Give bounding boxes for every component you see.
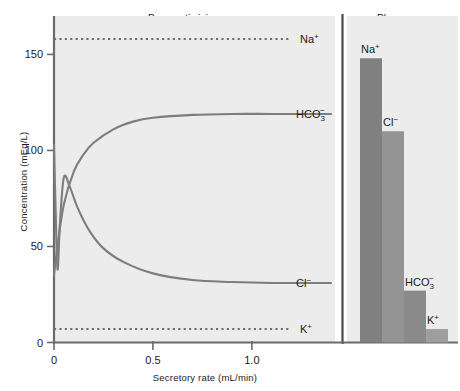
x-tick-label: 0: [51, 354, 57, 366]
y-tick-label: 150: [25, 48, 43, 60]
x-tick-labels: 00.51.0: [51, 354, 260, 366]
y-tick-label: 0: [37, 337, 43, 349]
y-tick-labels: 050100150: [25, 48, 43, 348]
x-tick-label: 1.0: [244, 354, 259, 366]
figure-panel: Concentration (mEq/L) Secretory rate (mL…: [0, 0, 460, 391]
y-tick-label: 50: [31, 240, 43, 252]
bar-K+: [426, 329, 448, 342]
bar-Na+: [360, 58, 382, 342]
bar-HCO3-: [404, 291, 426, 343]
x-tick-label: 0.5: [145, 354, 160, 366]
y-tick-label: 100: [25, 144, 43, 156]
plot-area-background-left: [54, 16, 335, 342]
chart-canvas: 050100150 00.51.0 Na+HCO3−Cl−K+ Na+Cl−HC…: [0, 0, 460, 391]
bar-Cl-: [382, 131, 404, 342]
